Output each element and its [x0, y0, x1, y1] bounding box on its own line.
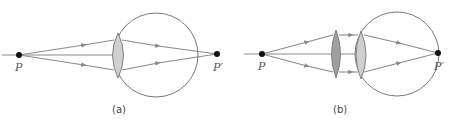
lens-diagram: P P′ (a)	[0, 0, 452, 124]
object-point-p	[16, 52, 22, 58]
image-label: P′	[433, 60, 444, 73]
refracted-rays	[122, 40, 217, 70]
eyeball-circle	[355, 12, 439, 96]
image-point-p-prime	[214, 51, 220, 57]
object-label: P	[257, 60, 266, 73]
caption-a: (a)	[112, 104, 126, 115]
image-label: P′	[212, 61, 223, 74]
image-point-p-prime	[435, 50, 441, 56]
object-label: P	[14, 61, 23, 74]
eyeball-circle	[114, 13, 198, 97]
eye-lens	[113, 33, 124, 78]
panel-b: P P′ (b)	[244, 12, 444, 115]
caption-b: (b)	[333, 104, 347, 115]
panel-a: P P′ (a)	[2, 13, 223, 115]
corrective-lens	[332, 30, 341, 78]
object-point-p	[259, 51, 265, 57]
refracted-rays	[364, 35, 438, 72]
